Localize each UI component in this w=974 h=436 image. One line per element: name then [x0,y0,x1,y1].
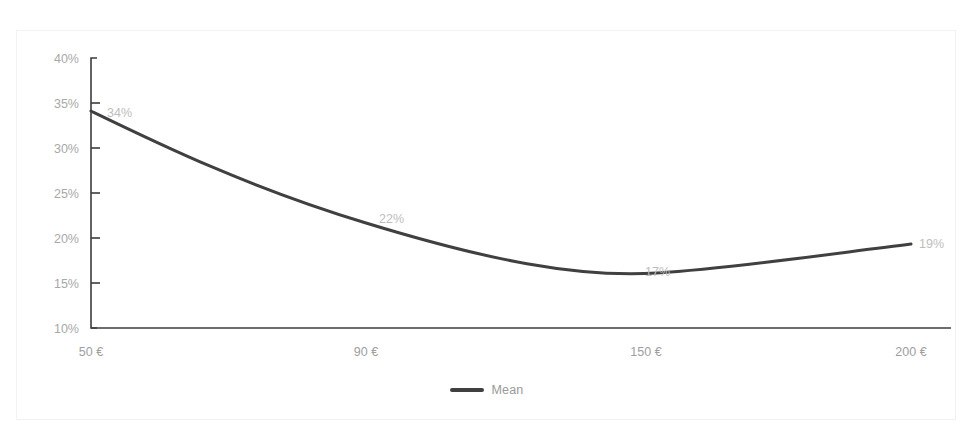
data-label: 17% [645,265,670,279]
data-point-labels: 34% 22% 17% 19% [107,106,944,279]
y-tick-label: 35% [54,97,79,111]
clipped-header-text [0,0,974,18]
line-chart-plot: 40% 35% 30% 25% 20% 15% 10% 50 € 90 € 15… [17,31,957,421]
y-tick-label: 10% [54,322,79,336]
data-label: 34% [107,106,132,120]
chart-legend: Mean [17,383,957,397]
series-line-mean [91,111,911,274]
chart-container: 40% 35% 30% 25% 20% 15% 10% 50 € 90 € 15… [16,30,956,420]
data-label: 19% [919,237,944,251]
y-tick-label: 30% [54,142,79,156]
x-tick-label: 90 € [354,345,378,359]
y-tick-label: 20% [54,232,79,246]
legend-label-mean: Mean [491,383,523,397]
legend-swatch-mean [450,388,484,392]
y-axis-tick-labels: 40% 35% 30% 25% 20% 15% 10% [54,52,79,336]
x-tick-label: 150 € [630,345,661,359]
y-axis-ticks [91,103,100,283]
x-tick-label: 200 € [895,345,926,359]
data-label: 22% [379,212,404,226]
y-tick-label: 25% [54,187,79,201]
y-tick-label: 40% [54,52,79,66]
x-tick-label: 50 € [79,345,103,359]
x-axis-tick-labels: 50 € 90 € 150 € 200 € [79,345,927,359]
y-tick-label: 15% [54,277,79,291]
